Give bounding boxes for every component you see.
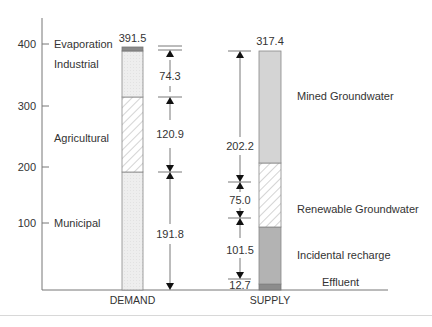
label-incidental-recharge: Incidental recharge xyxy=(297,249,391,261)
dim-mined: 202.2 xyxy=(226,140,254,152)
y-tick-400: 400 xyxy=(18,38,36,50)
dim-industrial: 74.3 xyxy=(159,70,180,82)
water-budget-chart: 400 300 200 100 Evaporation Industrial A… xyxy=(0,0,432,327)
label-mined-groundwater: Mined Groundwater xyxy=(297,90,394,102)
label-renewable-groundwater: Renewable Groundwater xyxy=(297,203,419,215)
demand-total: 391.5 xyxy=(119,32,147,44)
y-tick-200: 200 xyxy=(18,161,36,173)
y-tick-100: 100 xyxy=(18,217,36,229)
segment-effluent xyxy=(259,284,281,290)
demand-bar: 391.5 DEMAND xyxy=(110,32,156,306)
dim-effluent: 12.7 xyxy=(229,279,250,291)
label-evaporation: Evaporation xyxy=(54,38,113,50)
segment-municipal xyxy=(122,172,143,290)
segment-evaporation xyxy=(122,47,143,51)
label-effluent: Effluent xyxy=(322,276,359,288)
label-industrial: Industrial xyxy=(54,58,99,70)
segment-incidental-recharge xyxy=(259,227,281,284)
demand-category-labels: Evaporation Industrial Agricultural Muni… xyxy=(54,38,113,229)
segment-agricultural xyxy=(122,97,143,172)
label-agricultural: Agricultural xyxy=(54,132,109,144)
supply-total: 317.4 xyxy=(256,35,284,47)
x-label-demand: DEMAND xyxy=(110,294,156,306)
dim-municipal: 191.8 xyxy=(156,228,184,240)
separator-line xyxy=(0,315,432,316)
supply-category-labels: Mined Groundwater Renewable Groundwater … xyxy=(297,90,419,288)
segment-industrial xyxy=(122,51,143,97)
demand-dimensions xyxy=(158,46,182,290)
y-tick-300: 300 xyxy=(18,100,36,112)
dim-renewable: 75.0 xyxy=(229,194,250,206)
segment-mined-groundwater xyxy=(259,51,281,163)
x-label-supply: SUPPLY xyxy=(250,294,291,306)
supply-bar: 317.4 SUPPLY xyxy=(250,35,291,306)
dim-agricultural: 120.9 xyxy=(156,128,184,140)
segment-renewable-groundwater xyxy=(259,163,281,227)
label-municipal: Municipal xyxy=(54,217,100,229)
dim-incidental: 101.5 xyxy=(226,244,254,256)
